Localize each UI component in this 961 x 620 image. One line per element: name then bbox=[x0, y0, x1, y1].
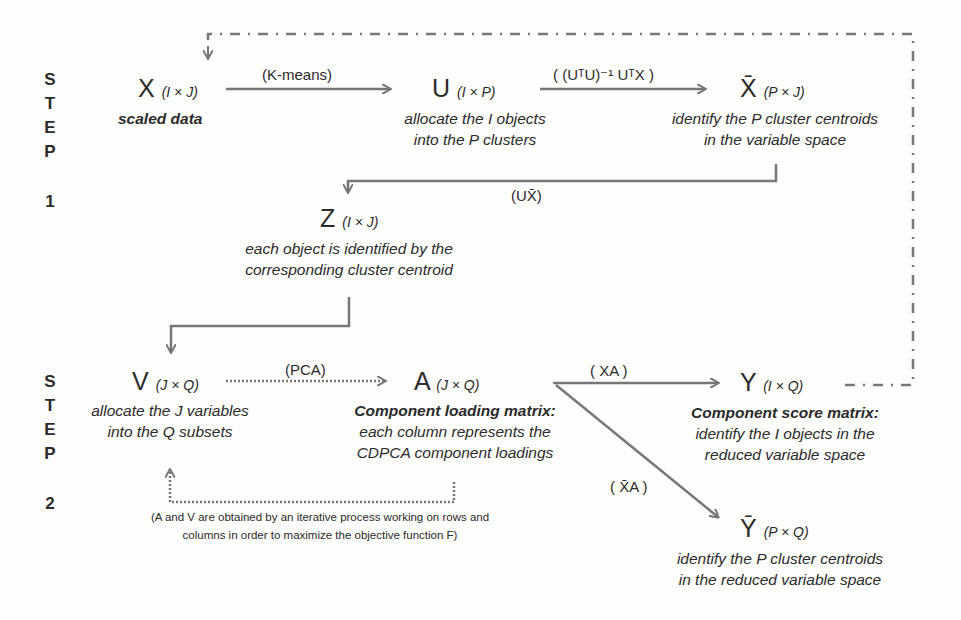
matrix-symbol: Ȳ bbox=[740, 514, 757, 542]
matrix-symbol: X̄ bbox=[740, 74, 757, 102]
step-number: 1 bbox=[40, 190, 60, 214]
matrix-dim: (I × Q) bbox=[763, 378, 803, 394]
matrix-dim: (J × Q) bbox=[156, 377, 199, 393]
matrix-v: V (J × Q) bbox=[132, 367, 199, 396]
desc-line: CDPCA component loadings bbox=[330, 442, 580, 463]
matrix-symbol: Z bbox=[320, 204, 335, 232]
desc-heading: Component loading matrix: bbox=[354, 402, 556, 419]
matrix-xbar: X̄ (P × J) bbox=[740, 74, 805, 103]
pca-label: (PCA) bbox=[285, 361, 326, 378]
matrix-dim: (P × Q) bbox=[764, 524, 809, 540]
desc-line: each column represents the bbox=[330, 421, 580, 442]
step-letter: P bbox=[40, 140, 60, 164]
desc-line: each object is identified by the bbox=[218, 238, 480, 259]
matrix-a: A (J × Q) bbox=[414, 367, 479, 396]
desc-line: allocate the J variables bbox=[70, 400, 270, 421]
step-letter: E bbox=[40, 116, 60, 140]
step1-label: S T E P 1 bbox=[40, 68, 60, 214]
centroid-formula-label: ( (UᵀU)⁻¹ UᵀX ) bbox=[553, 66, 654, 84]
matrix-x: X (I × J) bbox=[138, 74, 198, 103]
matrix-u: U (I × P) bbox=[432, 74, 496, 103]
step-letter: S bbox=[40, 68, 60, 92]
xbar-desc: identify the P cluster centroids in the … bbox=[650, 108, 900, 150]
step-letter: S bbox=[40, 370, 60, 394]
a-desc: Component loading matrix: each column re… bbox=[330, 400, 580, 463]
matrix-dim: (J × Q) bbox=[436, 377, 479, 393]
xbara-label: ( X̄A ) bbox=[610, 478, 648, 495]
iteration-note: (A and V are obtained by an iterative pr… bbox=[120, 508, 520, 544]
ybar-desc: identify the P cluster centroids in the … bbox=[640, 548, 920, 590]
matrix-symbol: X bbox=[138, 74, 155, 102]
y-desc: Component score matrix: identify the I o… bbox=[660, 402, 910, 465]
ux-label: (UX̄) bbox=[511, 187, 542, 204]
step-letter: E bbox=[40, 418, 60, 442]
matrix-dim: (I × J) bbox=[162, 84, 198, 100]
matrix-dim: (I × J) bbox=[342, 214, 378, 230]
matrix-symbol: Y bbox=[740, 368, 756, 396]
xa-label: ( XA ) bbox=[590, 362, 628, 379]
desc-line: into the P clusters bbox=[380, 129, 570, 150]
desc-line: allocate the I objects bbox=[380, 108, 570, 129]
matrix-symbol: A bbox=[414, 367, 429, 395]
matrix-symbol: V bbox=[132, 367, 149, 395]
kmeans-label: (K-means) bbox=[262, 66, 332, 83]
matrix-symbol: U bbox=[432, 74, 450, 102]
desc-line: identify the P cluster centroids bbox=[640, 548, 920, 569]
desc-line: reduced variable space bbox=[660, 444, 910, 465]
step-letter: T bbox=[40, 394, 60, 418]
step-number: 2 bbox=[40, 492, 60, 516]
desc-line: in the variable space bbox=[650, 129, 900, 150]
matrix-ybar: Ȳ (P × Q) bbox=[740, 514, 809, 543]
matrix-y: Y (I × Q) bbox=[740, 368, 803, 397]
desc-line: identify the I objects in the bbox=[660, 423, 910, 444]
desc-line: identify the P cluster centroids bbox=[650, 108, 900, 129]
note-line: columns in order to maximize the objecti… bbox=[120, 526, 520, 544]
z-desc: each object is identified by the corresp… bbox=[218, 238, 480, 280]
desc-line: scaled data bbox=[118, 108, 202, 129]
v-desc: allocate the J variables into the Q subs… bbox=[70, 400, 270, 442]
matrix-z: Z (I × J) bbox=[320, 204, 378, 233]
desc-line: corresponding cluster centroid bbox=[218, 259, 480, 280]
matrix-dim: (I × P) bbox=[457, 84, 496, 100]
matrix-dim: (P × J) bbox=[764, 84, 805, 100]
u-desc: allocate the I objects into the P cluste… bbox=[380, 108, 570, 150]
desc-heading: Component score matrix: bbox=[691, 404, 879, 421]
desc-line: in the reduced variable space bbox=[640, 569, 920, 590]
step-letter: P bbox=[40, 442, 60, 466]
step-letter: T bbox=[40, 92, 60, 116]
note-line: (A and V are obtained by an iterative pr… bbox=[120, 508, 520, 526]
x-desc: scaled data bbox=[118, 108, 202, 129]
step2-label: S T E P 2 bbox=[40, 370, 60, 516]
desc-line: into the Q subsets bbox=[70, 421, 270, 442]
